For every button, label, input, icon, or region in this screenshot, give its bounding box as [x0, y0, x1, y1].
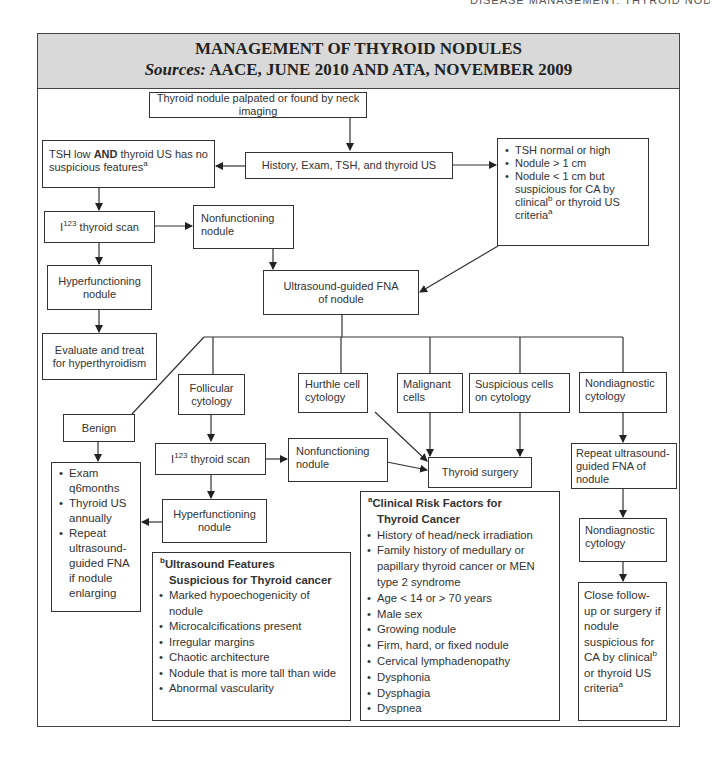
node-repeat-fna-label: Repeat ultrasound-guided FNA of nodule [576, 447, 670, 485]
node-close-followup: Close follow-up or surgery if nodule sus… [578, 582, 667, 721]
note-title-line1: Ultrasound Features [165, 558, 275, 570]
feature-item: Abnormal vascularity [169, 681, 345, 697]
note-title-line2: Thyroid Cancer [368, 512, 554, 528]
node-i123-scan-1: I123 thyroid scan [44, 211, 155, 243]
footnote-b-marker: b [652, 649, 656, 658]
risk-item: Dysphonia [377, 670, 554, 686]
node-criteria: TSH normal or high Nodule > 1 cm Nodule … [497, 138, 649, 246]
risk-item: Family history of medullary or papillary… [377, 543, 554, 590]
node-history-exam-label: History, Exam, TSH, and thyroid US [262, 159, 436, 172]
risk-item: Age < 14 or > 70 years [377, 591, 554, 607]
node-nondiagnostic-2-label: Nondiagnostic cytology [585, 524, 655, 549]
risk-item: Cervical lymphadenopathy [377, 654, 554, 670]
risk-item: Firm, hard, or fixed nodule [377, 638, 554, 654]
node-us-guided-fna-label: Ultrasound-guided FNA of nodule [282, 280, 400, 306]
risk-item: Male sex [377, 607, 554, 623]
node-tsh-low: TSH low AND thyroid US has no suspicious… [42, 140, 215, 188]
node-benign: Benign [63, 414, 135, 442]
feature-item: Microcalcifications present [169, 619, 345, 635]
followup-item: Thyroid US annually [69, 496, 135, 526]
chart-sources: Sources: AACE, JUNE 2010 AND ATA, NOVEMB… [38, 59, 679, 81]
followup-item: Exam q6months [69, 466, 135, 496]
risk-item: History of head/neck irradiation [377, 528, 554, 544]
chart-title: MANAGEMENT OF THYROID NODULES [38, 39, 679, 59]
node-hurthle: Hurthle cell cytology [298, 373, 368, 413]
node-nondiagnostic-1: Nondiagnostic cytology [579, 372, 667, 413]
node-hyperfunctioning-1-label: Hyperfunctioning nodule [53, 275, 146, 301]
node-nodule-found: Thyroid nodule palpated or found by neck… [149, 92, 367, 118]
footnote-a-marker: a [548, 207, 552, 216]
ultrasound-features-list: Marked hypoechogenicity of nodule Microc… [158, 588, 345, 697]
i123-superscript: 123 [174, 451, 187, 460]
sources-text: AACE, JUNE 2010 AND ATA, NOVEMBER 2009 [206, 60, 572, 79]
tsh-low-text-1: TSH low [49, 148, 94, 160]
followup-item: Repeat ultrasound-guided FNA if nodule e… [69, 526, 135, 601]
node-evaluate-treat-label: Evaluate and treat for hyperthyroidism [48, 344, 151, 370]
note-title-line1: Clinical Risk Factors for [372, 497, 501, 509]
node-evaluate-treat: Evaluate and treat for hyperthyroidism [42, 333, 157, 380]
i123-suffix: thyroid scan [77, 221, 139, 233]
node-i123-scan-2: I123 thyroid scan [155, 443, 266, 475]
note-clinical-title: aClinical Risk Factors forThyroid Cancer [366, 496, 554, 528]
node-nondiagnostic-2: Nondiagnostic cytology [579, 518, 667, 562]
node-nonfunctioning-2-label: Nonfunctioning nodule [296, 445, 369, 470]
benign-followup-list: Exam q6months Thyroid US annually Repeat… [58, 466, 135, 601]
node-nodule-found-label: Thyroid nodule palpated or found by neck… [155, 92, 361, 118]
node-us-guided-fna: Ultrasound-guided FNA of nodule [263, 270, 419, 315]
node-hyperfunctioning-2: Hyperfunctioning nodule [162, 499, 267, 543]
close-followup-text: Close follow-up or surgery if nodule sus… [584, 589, 661, 663]
node-suspicious-cells-label: Suspicious cells on cytology [475, 378, 553, 403]
footnote-a-marker: a [143, 159, 147, 168]
title-band: MANAGEMENT OF THYROID NODULES Sources: A… [37, 33, 680, 89]
node-follicular-label: Follicular cytology [184, 382, 239, 408]
running-head: DISEASE MANAGEMENT: THYROID NODULES MANA… [470, 0, 710, 6]
node-hurthle-label: Hurthle cell cytology [305, 378, 360, 403]
criteria-item: TSH normal or high [515, 144, 642, 157]
footnote-a-marker: a [619, 680, 623, 689]
node-malignant: Malignant cells [397, 373, 463, 413]
risk-item: Dysphagia [377, 686, 554, 702]
node-follicular: Follicular cytology [178, 374, 245, 415]
node-i123-scan-2-label: I123 thyroid scan [171, 453, 250, 466]
note-ultrasound-title: bUltrasound FeaturesSuspicious for Thyro… [158, 557, 345, 588]
note-title-line2: Suspicious for Thyroid cancer [160, 573, 345, 589]
i123-suffix: thyroid scan [188, 453, 250, 465]
node-malignant-label: Malignant cells [403, 378, 451, 403]
node-hyperfunctioning-1: Hyperfunctioning nodule [47, 265, 152, 310]
clinical-risk-list: History of head/neck irradiation Family … [366, 528, 554, 718]
risk-item: Growing nodule [377, 622, 554, 638]
node-nonfunctioning-2: Nonfunctioning nodule [288, 438, 388, 482]
node-thyroid-surgery: Thyroid surgery [428, 457, 532, 488]
tsh-low-and: AND [94, 148, 118, 160]
criteria-item: Nodule < 1 cm but suspicious for CA by c… [515, 170, 642, 222]
node-nonfunctioning-1: Nonfunctioning nodule [193, 205, 294, 249]
feature-item: Irregular margins [169, 635, 345, 651]
feature-item: Marked hypoechogenicity of nodule [169, 588, 345, 619]
i123-superscript: 123 [63, 219, 76, 228]
node-thyroid-surgery-label: Thyroid surgery [442, 466, 518, 479]
node-history-exam: History, Exam, TSH, and thyroid US [245, 152, 453, 179]
node-hyperfunctioning-2-label: Hyperfunctioning nodule [168, 508, 261, 534]
note-ultrasound-features: bUltrasound FeaturesSuspicious for Thyro… [152, 552, 351, 721]
node-nondiagnostic-1-label: Nondiagnostic cytology [585, 377, 655, 402]
node-repeat-fna: Repeat ultrasound-guided FNA of nodule [571, 443, 677, 489]
sources-label: Sources: [145, 60, 206, 79]
node-benign-followup: Exam q6months Thyroid US annually Repeat… [51, 462, 141, 612]
node-i123-scan-1-label: I123 thyroid scan [60, 221, 139, 234]
feature-item: Chaotic architecture [169, 650, 345, 666]
criteria-list: TSH normal or high Nodule > 1 cm Nodule … [504, 144, 642, 222]
node-suspicious-cells: Suspicious cells on cytology [469, 373, 570, 413]
criteria-item: Nodule > 1 cm [515, 157, 642, 170]
node-nonfunctioning-1-label: Nonfunctioning nodule [201, 212, 274, 237]
risk-item: Dyspnea [377, 701, 554, 717]
node-benign-label: Benign [82, 422, 116, 435]
feature-item: Nodule that is more tall than wide [169, 666, 345, 682]
note-clinical-risk-factors: aClinical Risk Factors forThyroid Cancer… [360, 491, 560, 721]
